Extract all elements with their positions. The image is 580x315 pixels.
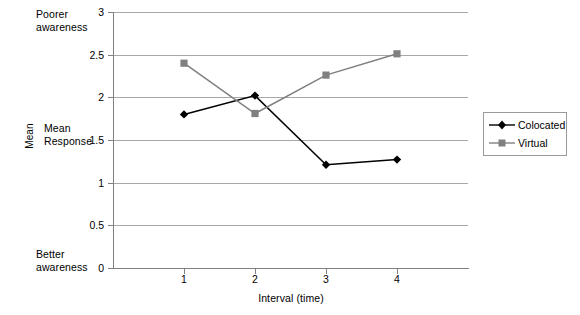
data-point-virtual-4: [393, 50, 400, 57]
legend-label-colocated: Colocated: [518, 119, 565, 131]
series-line-colocated: [184, 96, 397, 165]
series-line-virtual: [184, 54, 397, 114]
data-point-colocated-1: [180, 110, 188, 118]
data-point-virtual-1: [180, 60, 187, 67]
data-point-virtual-2: [251, 110, 258, 117]
data-point-colocated-4: [393, 155, 401, 163]
legend-label-virtual: Virtual: [518, 137, 548, 149]
legend-swatch-colocated: [488, 116, 516, 134]
chart-legend: Colocated Virtual: [483, 112, 567, 156]
legend-item-colocated: Colocated: [484, 116, 568, 134]
chart-figure: Mean Poorer awareness Mean Response Bett…: [0, 0, 580, 315]
legend-swatch-virtual: [488, 134, 516, 152]
legend-item-virtual: Virtual: [484, 134, 568, 152]
x-axis-title: Interval (time): [113, 292, 469, 304]
series-layer: [0, 0, 580, 315]
data-point-virtual-3: [322, 72, 329, 79]
